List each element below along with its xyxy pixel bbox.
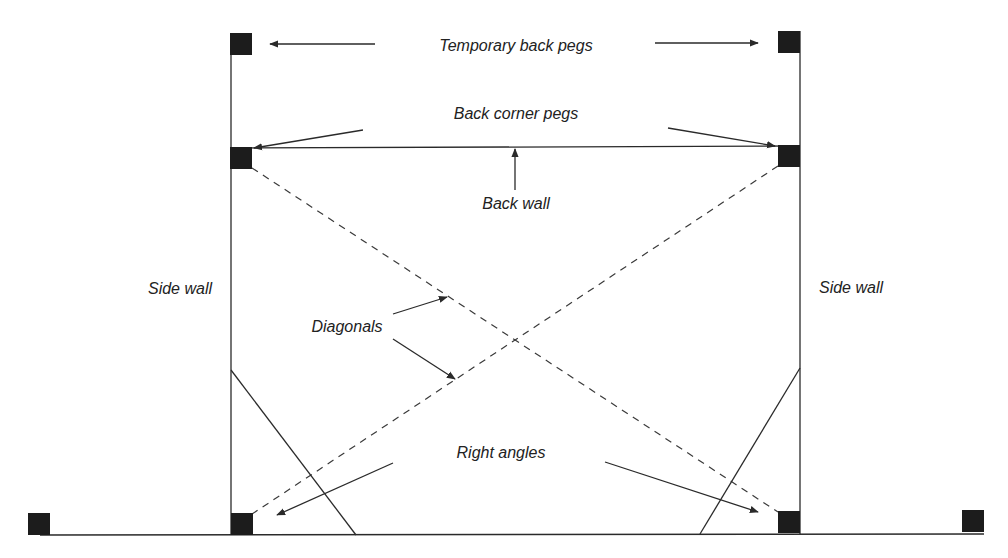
baseline-peg-right	[962, 510, 984, 532]
label-temporary-back-pegs: Temporary back pegs	[439, 37, 592, 54]
back-wall-line	[241, 146, 789, 148]
front-corner-peg-right	[778, 511, 800, 533]
label-right-angles: Right angles	[457, 444, 546, 461]
arrow-diagonal-2	[393, 339, 455, 379]
label-side-wall-right: Side wall	[819, 279, 883, 296]
front-building-line	[40, 534, 984, 535]
label-diagonals: Diagonals	[311, 318, 382, 335]
setting-out-diagram: Temporary back pegs Back corner pegs Bac…	[0, 0, 1008, 558]
label-back-wall: Back wall	[482, 195, 550, 212]
temp-peg-left	[230, 33, 252, 55]
label-back-corner-pegs: Back corner pegs	[454, 105, 579, 122]
temp-peg-right	[778, 31, 800, 53]
front-corner-peg-left	[231, 513, 253, 535]
diagonal-line-2	[252, 166, 778, 514]
arrow-diagonal-1	[393, 297, 447, 314]
arrow-right-angle-right	[605, 462, 758, 512]
back-corner-peg-right	[778, 145, 800, 167]
label-side-wall-left: Side wall	[148, 280, 212, 297]
right-angle-line-left	[231, 370, 356, 535]
arrow-back-corner-right	[668, 128, 775, 146]
baseline-peg-left	[28, 513, 50, 535]
arrow-back-corner-left	[254, 130, 363, 148]
back-corner-peg-left	[230, 147, 252, 169]
